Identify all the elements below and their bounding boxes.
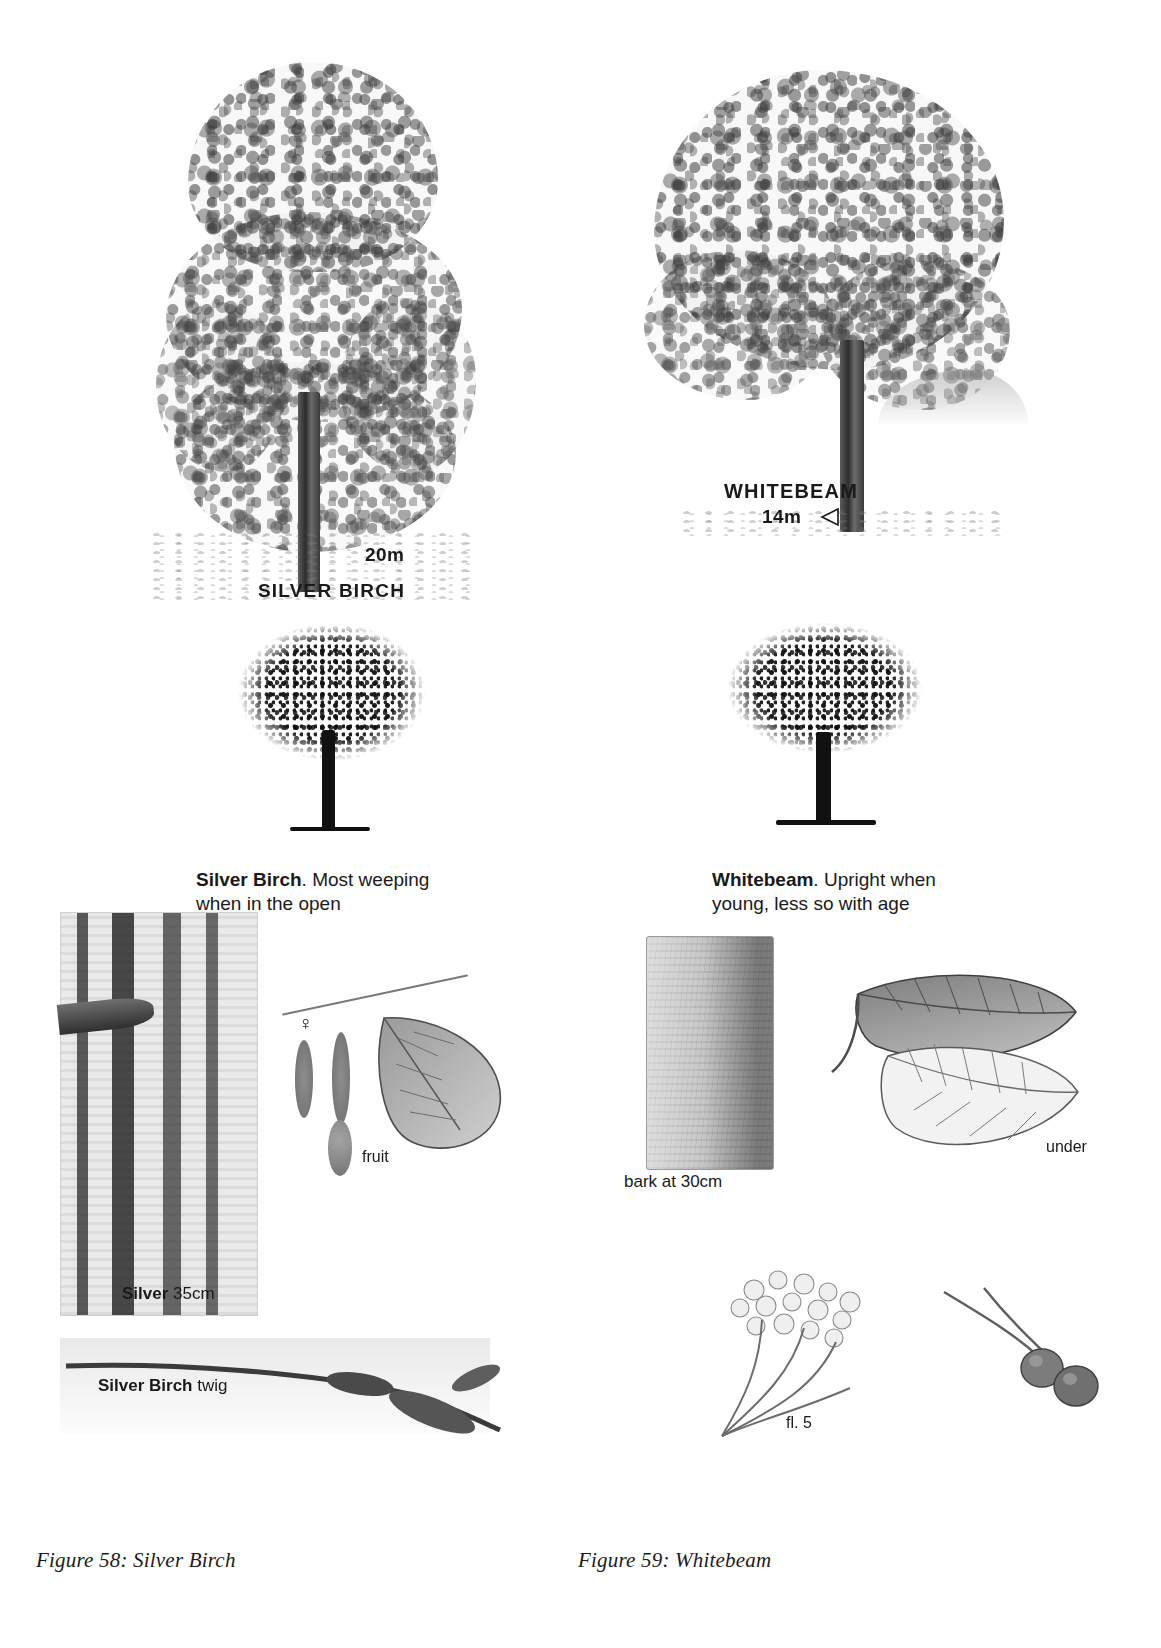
- birch-male-catkin-1: [295, 1040, 313, 1118]
- whitebeam-bark-illustration: [646, 936, 772, 1168]
- whitebeam-silhouette-illustration: [700, 612, 950, 852]
- silver-birch-tree-illustration: 20m SILVER BIRCH: [150, 62, 480, 602]
- caption-species-name: Whitebeam: [712, 869, 813, 890]
- whitebeam-silhouette-trunk: [816, 732, 831, 824]
- twig-label-rest: twig: [197, 1376, 227, 1395]
- caption-species-line2: when in the open: [196, 893, 341, 914]
- whitebeam-bark-surface: [646, 936, 774, 1170]
- whitebeam-height-label: 14m: [762, 506, 801, 528]
- whitebeam-leaf-underside-label: under: [1046, 1138, 1087, 1156]
- birch-species-overlay-label: SILVER BIRCH: [258, 580, 405, 602]
- whitebeam-berry-illustration: [930, 1282, 1110, 1432]
- figure-caption-right: Figure 59: Whitebeam: [578, 1548, 771, 1573]
- whitebeam-leaf-illustration: under: [830, 960, 1100, 1180]
- bark-label-bold: Silver: [122, 1284, 168, 1303]
- whitebeam-silhouette-ground: [776, 820, 876, 825]
- silver-birch-silhouette-caption: Silver Birch. Most weeping when in the o…: [196, 868, 429, 916]
- silver-birch-twig-label: Silver Birch twig: [98, 1376, 227, 1396]
- birch-silhouette-trunk: [322, 730, 335, 830]
- silver-birch-detail-group: ♀ fruit: [270, 980, 520, 1210]
- whitebeam-flower-illustration: fl. 5: [700, 1268, 910, 1448]
- whitebeam-canopy-lower-left: [644, 250, 834, 400]
- birch-silhouette-ground: [290, 827, 370, 831]
- caption-species-line2: young, less so with age: [712, 893, 910, 914]
- birch-male-catkin-2: [332, 1032, 350, 1124]
- bark-label-rest: 35cm: [173, 1284, 215, 1303]
- birch-canopy-right-sweep: [340, 298, 476, 474]
- whitebeam-marker-triangle-icon: [820, 508, 840, 526]
- birch-bark-surface: [60, 912, 258, 1316]
- twig-label-bold: Silver Birch: [98, 1376, 193, 1395]
- page-canvas: 20m SILVER BIRCH Silver Birch. Most weep…: [0, 0, 1161, 1648]
- birch-leaf: [368, 1008, 516, 1158]
- silver-birch-twig-illustration: Silver Birch twig: [60, 1332, 520, 1452]
- silver-birch-bark-illustration: Silver 35cm: [60, 912, 256, 1314]
- figure-caption-left: Figure 58: Silver Birch: [36, 1548, 236, 1573]
- whitebeam-bark-label: bark at 30cm: [624, 1172, 722, 1192]
- silver-birch-silhouette-illustration: [212, 612, 452, 852]
- caption-species-name: Silver Birch: [196, 869, 302, 890]
- whitebeam-tree-illustration: WHITEBEAM 14m: [640, 70, 1020, 540]
- birch-female-symbol: ♀: [298, 1012, 313, 1035]
- whitebeam-ground-plane: [680, 510, 1010, 536]
- whitebeam-species-overlay-label: WHITEBEAM: [724, 480, 858, 503]
- caption-species-rest: . Upright when: [813, 869, 936, 890]
- whitebeam-silhouette-caption: Whitebeam. Upright when young, less so w…: [712, 868, 936, 916]
- birch-fruit-cone: [328, 1120, 352, 1176]
- birch-canopy-left-sweep: [156, 302, 286, 472]
- caption-species-rest: . Most weeping: [302, 869, 430, 890]
- birch-height-label: 20m: [365, 544, 404, 566]
- whitebeam-trunk: [840, 340, 864, 532]
- silver-birch-bark-label: Silver 35cm: [122, 1284, 215, 1304]
- whitebeam-flower-label: fl. 5: [786, 1414, 812, 1432]
